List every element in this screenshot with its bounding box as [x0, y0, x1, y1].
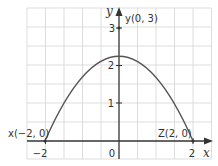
- point-label-y: y(0, 3): [125, 13, 158, 24]
- point-z-marker: [191, 139, 194, 142]
- point-x-marker: [43, 139, 46, 142]
- tick-y-3: 3: [109, 23, 115, 34]
- point-label-z: Z(2, 0): [158, 128, 192, 139]
- x-axis-label: x: [203, 146, 210, 160]
- tick-x-0: 0: [109, 148, 115, 159]
- y-axis-label: y: [105, 4, 113, 18]
- point-y-marker: [117, 26, 120, 29]
- tick-x-neg2: −2: [33, 148, 48, 159]
- parabola-chart: −2 0 2 1 2 3 x y x(−2, 0) y(0, 3) Z(2, 0…: [0, 0, 218, 166]
- tick-y-1: 1: [108, 98, 114, 109]
- tick-x-2: 2: [189, 148, 195, 159]
- tick-y-2: 2: [108, 60, 114, 71]
- point-label-x: x(−2, 0): [8, 128, 49, 139]
